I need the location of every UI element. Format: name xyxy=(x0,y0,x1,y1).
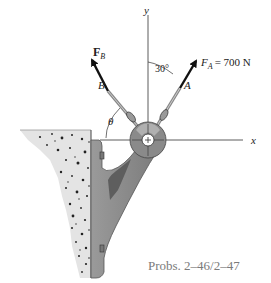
force-a-subscript: A xyxy=(207,62,213,71)
force-a-value: = 700 N xyxy=(215,56,251,68)
axes xyxy=(100,15,243,140)
x-axis-label: x xyxy=(250,134,256,146)
hub xyxy=(130,122,166,158)
angle-30-label: 30° xyxy=(155,63,169,74)
bolt-top xyxy=(100,152,104,159)
point-a-label: A xyxy=(183,79,191,91)
diagram-canvas: y x 30° A FA= 700 N FB B θ Probs. 2–46/2… xyxy=(0,0,271,283)
y-axis-label: y xyxy=(143,4,149,16)
force-b-subscript: B xyxy=(100,52,105,61)
bracket-force-diagram: y x 30° A FA= 700 N FB B θ Probs. 2–46/2… xyxy=(0,0,271,283)
cable-b xyxy=(92,60,144,134)
force-a-label: FA= 700 N xyxy=(200,56,251,71)
point-b-label: B xyxy=(98,79,105,91)
concrete-wall xyxy=(20,130,91,278)
force-b-symbol: F xyxy=(93,45,100,59)
theta-label: θ xyxy=(108,115,114,127)
bolt-bottom xyxy=(100,245,104,252)
force-b-label: FB xyxy=(93,45,105,61)
problem-caption: Probs. 2–46/2–47 xyxy=(148,258,240,273)
